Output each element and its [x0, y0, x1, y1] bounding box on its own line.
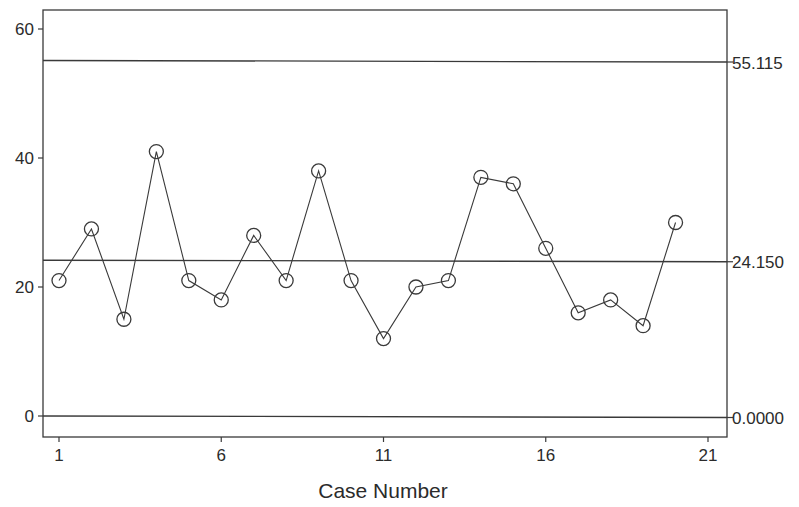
- x-tick-label: 16: [536, 446, 555, 465]
- x-tick-label: 6: [217, 446, 226, 465]
- control-line-label: 0.0000: [732, 409, 784, 428]
- y-tick-label: 40: [15, 149, 34, 168]
- x-axis-ticks: 16111621: [54, 437, 717, 465]
- x-axis-title: Case Number: [318, 479, 448, 502]
- x-tick-label: 1: [54, 446, 63, 465]
- y-tick-label: 0: [25, 407, 34, 426]
- y-tick-label: 60: [15, 20, 34, 39]
- control-line-center: [43, 260, 727, 262]
- series-line: [59, 152, 676, 339]
- data-series: [52, 145, 683, 346]
- plot-frame: [43, 10, 727, 437]
- control-line-label: 24.150: [732, 253, 784, 272]
- plot-border: [43, 10, 727, 437]
- control-line-ucl: [43, 61, 727, 63]
- y-axis-ticks: 0204060: [15, 20, 43, 426]
- control-chart: 55.11524.1500.0000 0204060 16111621 Case…: [0, 0, 799, 507]
- x-tick-label: 21: [699, 446, 718, 465]
- control-line-lcl: [43, 416, 727, 418]
- y-tick-label: 20: [15, 278, 34, 297]
- x-tick-label: 11: [375, 446, 393, 465]
- control-line-label: 55.115: [732, 54, 783, 73]
- control-lines: 55.11524.1500.0000: [43, 54, 784, 428]
